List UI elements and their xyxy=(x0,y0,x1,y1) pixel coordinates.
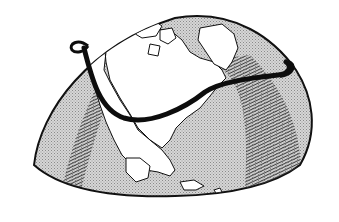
globe-svg xyxy=(0,0,339,222)
globe-illustration xyxy=(0,0,339,222)
route-start-loop xyxy=(71,42,88,52)
